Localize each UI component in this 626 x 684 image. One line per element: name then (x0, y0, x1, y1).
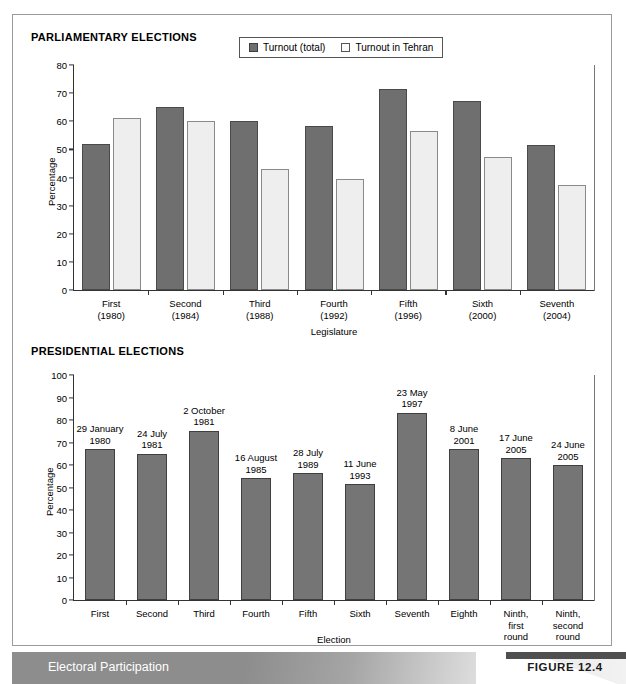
plot-area: 0102030405060708090100PercentageFirst29 … (73, 375, 594, 601)
y-axis-tick-mark (69, 554, 74, 555)
bar-date-annotation: 24 July 1981 (114, 428, 190, 451)
chart-legend: Turnout (total)Turnout in Tehran (239, 37, 443, 58)
bar (484, 157, 512, 290)
x-axis-tick-mark (490, 600, 491, 605)
figure-frame: PARLIAMENTARY ELECTIONS PRESIDENTIAL ELE… (12, 14, 612, 646)
bar (453, 101, 481, 290)
bar (558, 185, 586, 290)
legend-label: Turnout (total) (263, 42, 325, 53)
x-axis-tick-mark (445, 290, 446, 295)
bar (449, 449, 479, 600)
x-axis-tick-mark (178, 600, 179, 605)
bar (379, 89, 407, 290)
x-axis-tick-mark (126, 600, 127, 605)
legend-swatch-icon (249, 43, 258, 52)
x-axis-tick-mark (297, 290, 298, 295)
bar (241, 478, 271, 600)
bar (293, 473, 323, 600)
y-axis-tick-mark (69, 261, 74, 262)
x-axis-tick-mark (371, 290, 372, 295)
y-axis-tick-mark (69, 93, 74, 94)
bar-date-annotation: 23 May 1997 (374, 387, 450, 410)
x-axis-tick-mark (542, 600, 543, 605)
y-axis-tick-mark (69, 397, 74, 398)
x-axis-tick-mark (230, 600, 231, 605)
y-axis-tick-mark (69, 509, 74, 510)
y-axis-tick-mark (69, 149, 74, 150)
y-axis-tick-mark (69, 205, 74, 206)
y-axis-tick-mark (69, 577, 74, 578)
bar-date-annotation: 24 June 2005 (530, 439, 606, 462)
presidential-elections-chart: 0102030405060708090100PercentageFirst29 … (73, 375, 593, 645)
x-axis-title: Legislature (74, 326, 594, 337)
figure-tag-rule (506, 652, 626, 659)
figure-tag-wrapper: FIGURE 12.4 (496, 652, 626, 684)
bar (187, 121, 215, 290)
parliamentary-elections-chart: 01020304050607080PercentageFirst (1980)S… (73, 65, 593, 355)
y-axis-tick-mark (69, 121, 74, 122)
bar (85, 449, 115, 600)
y-axis-title: Percentage (46, 157, 57, 206)
figure-caption-text: Electoral Participation (48, 660, 169, 674)
bar (527, 145, 555, 290)
figure-caption-band: Electoral Participation FIGURE 12.4 (12, 652, 626, 684)
y-axis-tick-mark (69, 374, 74, 375)
x-axis-tick-mark (334, 600, 335, 605)
x-axis-tick-mark (148, 290, 149, 295)
y-axis-title: Percentage (44, 467, 55, 516)
y-axis-tick-mark (69, 289, 74, 290)
plot-right-edge (594, 375, 595, 601)
plot-right-edge (594, 65, 595, 291)
bar (113, 118, 141, 290)
y-axis-tick-mark (69, 464, 74, 465)
y-axis-tick-mark (69, 177, 74, 178)
bar (82, 144, 110, 290)
y-axis-tick-mark (69, 532, 74, 533)
legend-label: Turnout in Tehran (355, 42, 433, 53)
bar (345, 484, 375, 600)
x-axis-tick-mark (282, 600, 283, 605)
x-axis-tick-mark (386, 600, 387, 605)
x-axis-title: Election (74, 634, 594, 645)
bar (305, 126, 333, 290)
x-axis-tick-mark (223, 290, 224, 295)
legend-item[interactable]: Turnout (total) (249, 42, 325, 53)
bar (336, 179, 364, 290)
bar-date-annotation: 11 June 1993 (322, 458, 398, 481)
y-axis-tick-mark (69, 233, 74, 234)
x-axis-tick-mark (438, 600, 439, 605)
parliamentary-panel-title: PARLIAMENTARY ELECTIONS (31, 31, 197, 43)
plot-area: 01020304050607080PercentageFirst (1980)S… (73, 65, 594, 291)
bar (410, 131, 438, 290)
figure-number-label: FIGURE 12.4 (506, 661, 624, 673)
y-axis-tick-mark (69, 64, 74, 65)
bar (230, 121, 258, 290)
bar (397, 413, 427, 600)
legend-item[interactable]: Turnout in Tehran (341, 42, 433, 53)
bar (261, 169, 289, 291)
bar (501, 458, 531, 600)
bar (189, 431, 219, 600)
legend-swatch-icon (341, 43, 350, 52)
bar (137, 454, 167, 600)
bar (553, 465, 583, 600)
bar-date-annotation: 2 October 1981 (166, 405, 242, 428)
y-axis-tick-mark (69, 599, 74, 600)
x-axis-tick-label: Seventh (2004) (510, 298, 604, 321)
x-axis-tick-mark (520, 290, 521, 295)
bar (156, 107, 184, 290)
y-axis-tick-mark (69, 419, 74, 420)
y-axis-tick-mark (69, 487, 74, 488)
